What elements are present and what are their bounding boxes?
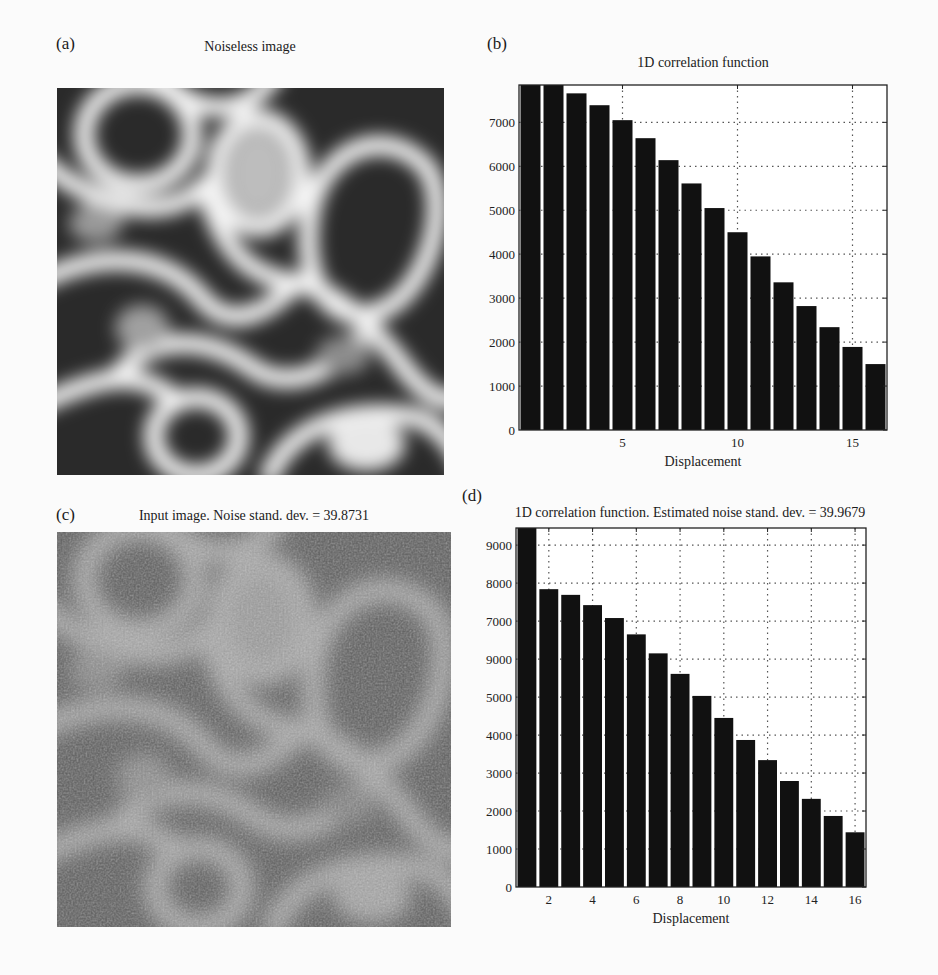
x-tick-label: 2: [546, 892, 553, 907]
bar: [736, 740, 755, 887]
y-tick-label: 9000: [486, 652, 512, 667]
y-tick-label: 0: [506, 880, 513, 895]
bar: [780, 781, 799, 887]
x-tick-label: 10: [717, 892, 730, 907]
bar: [824, 816, 843, 887]
bar: [539, 589, 558, 887]
x-tick-label: 6: [633, 892, 640, 907]
bar: [561, 595, 580, 887]
bar: [627, 634, 646, 887]
bar: [605, 618, 624, 887]
x-tick-label: 12: [761, 892, 774, 907]
bar: [758, 760, 777, 887]
y-tick-label: 1000: [486, 842, 512, 857]
x-tick-label: 8: [677, 892, 684, 907]
bar: [846, 832, 865, 887]
y-tick-label: 9000: [486, 538, 512, 553]
y-tick-label: 7000: [486, 614, 512, 629]
y-tick-label: 4000: [486, 728, 512, 743]
y-tick-label: 5000: [486, 690, 512, 705]
bar: [518, 528, 537, 887]
x-tick-label: 14: [805, 892, 819, 907]
bar: [802, 799, 821, 887]
x-axis-label: Displacement: [653, 911, 730, 926]
bar: [714, 718, 733, 887]
bar: [583, 605, 602, 887]
bar: [649, 653, 668, 887]
x-tick-label: 4: [589, 892, 596, 907]
correlation-chart-d: 0100020003000400050009000700080009000246…: [0, 0, 938, 975]
y-tick-label: 3000: [486, 766, 512, 781]
y-tick-label: 2000: [486, 804, 512, 819]
bar: [671, 674, 690, 887]
x-tick-label: 16: [849, 892, 863, 907]
y-tick-label: 8000: [486, 576, 512, 591]
bar: [693, 696, 712, 887]
